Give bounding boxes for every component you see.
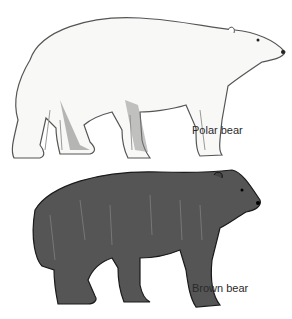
- polar-bear-drawing: [12, 18, 285, 158]
- brown-bear-label: Brown bear: [192, 282, 248, 294]
- polar-bear-label: Polar bear: [192, 124, 243, 136]
- bears-illustration: [0, 0, 292, 319]
